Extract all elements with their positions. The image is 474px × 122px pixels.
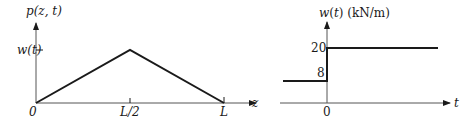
x-tick-half-L: L/2 [119, 105, 140, 119]
left-diagram: p(z, t) w(t) 0 L/2 L z [17, 4, 259, 119]
p-axis-label: p(z, t) [26, 4, 62, 18]
y-tick-20: 20 [311, 41, 326, 55]
t-tick-0: 0 [323, 105, 331, 119]
step-load-line [283, 48, 438, 81]
t-axis-label: t [454, 96, 459, 110]
z-axis-label: z [251, 96, 259, 110]
w-axis-label: w(t) (kN/m) [319, 6, 390, 20]
w-tick-label: w(t) [17, 43, 42, 57]
right-diagram: w(t) (kN/m) 20 8 0 t [280, 6, 459, 119]
y-tick-8: 8 [317, 66, 325, 80]
diagram-canvas: p(z, t) w(t) 0 L/2 L z w(t) (kN/m) 20 8 … [0, 0, 474, 122]
x-tick-0: 0 [29, 105, 37, 119]
triangular-load-line [36, 50, 224, 103]
x-tick-L: L [219, 105, 228, 119]
diagrams-svg: p(z, t) w(t) 0 L/2 L z w(t) (kN/m) 20 8 … [0, 0, 474, 122]
